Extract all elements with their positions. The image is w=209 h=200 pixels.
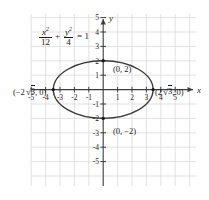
x-term-denominator: 12 <box>39 37 52 47</box>
x-term-numerator: x2 <box>40 26 51 37</box>
bottom-vertex-dot <box>102 117 105 120</box>
y-term-denominator: 4 <box>64 37 73 47</box>
y-tick-label: 1 <box>95 71 99 80</box>
x-exponent: 2 <box>46 26 49 32</box>
y-tick-label: -5 <box>93 157 99 166</box>
bottom-vertex-label: (0, −2) <box>113 126 136 136</box>
coordinate-plane: -5 -4 -3 -2 -1 1 2 3 4 5 5 4 3 2 1 -1 -2… <box>0 0 209 200</box>
y-term-numerator: y2 <box>63 26 74 37</box>
x-tick-label: -1 <box>86 93 92 102</box>
y-tick-label: -1 <box>93 100 99 109</box>
y-term-fraction: y2 4 <box>63 26 74 47</box>
y-exponent: 2 <box>69 26 72 32</box>
right-vertex-label: (2√3, 0) <box>155 86 184 97</box>
top-vertex-label: (0, 2) <box>113 64 131 74</box>
x-tick-label: 3 <box>145 93 149 102</box>
top-vertex-dot <box>102 59 105 62</box>
y-axis-label: y <box>108 13 113 23</box>
right-radical: √3 <box>162 86 172 97</box>
y-tick-label: 4 <box>95 28 99 37</box>
left-vertex-label: (−2√3, 0) <box>13 86 46 97</box>
ellipse-graph-figure: -5 -4 -3 -2 -1 1 2 3 4 5 5 4 3 2 1 -1 -2… <box>0 0 209 200</box>
x-tick-label: -2 <box>71 93 77 102</box>
x-axis-label: x <box>196 85 201 95</box>
x-term-fraction: x2 12 <box>39 26 52 47</box>
y-tick-label: 3 <box>95 42 99 51</box>
x-axis-arrowhead <box>188 87 194 92</box>
x-tick-label: -3 <box>57 93 63 102</box>
y-axis-arrowhead <box>101 19 106 25</box>
left-vertex-dot <box>52 88 55 91</box>
ellipse-equation: x2 12 + y2 4 = 1 <box>38 26 91 47</box>
x-tick-label: 1 <box>116 93 120 102</box>
equals-one: = 1 <box>77 32 89 41</box>
y-tick-label: -3 <box>93 129 99 138</box>
plus-sign: + <box>55 32 60 41</box>
y-tick-label: -4 <box>93 143 99 152</box>
x-tick-label: 2 <box>130 93 134 102</box>
left-radical: √3 <box>25 86 35 97</box>
y-tick-label: 5 <box>95 13 99 22</box>
